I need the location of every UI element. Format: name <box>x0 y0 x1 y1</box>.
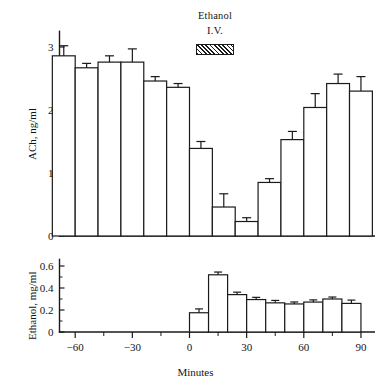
x-tick-label: −60 <box>67 341 85 353</box>
x-tick-label: 30 <box>241 341 253 353</box>
bar <box>304 302 323 332</box>
bar <box>190 313 209 332</box>
bar <box>266 303 285 332</box>
bottom-y-tick-label: 0.2 <box>40 304 54 316</box>
bar <box>167 87 190 236</box>
bar <box>327 84 350 236</box>
top-y-tick-label: 3 <box>48 41 54 53</box>
bar <box>247 300 266 332</box>
annotation-iv-label: I.V. <box>180 25 250 36</box>
bar <box>350 91 373 236</box>
bar <box>235 222 258 236</box>
bar <box>75 68 98 236</box>
top-y-axis-title: ACh, ng/ml <box>26 108 38 160</box>
x-tick-label: −30 <box>124 341 142 353</box>
bar <box>304 107 327 236</box>
bar <box>190 148 213 236</box>
bar <box>281 140 304 236</box>
bar <box>323 299 342 332</box>
x-tick-label: 90 <box>355 341 367 353</box>
top-panel-ach: 0123 <box>0 0 391 250</box>
bottom-y-tick-label: 0.6 <box>40 260 54 272</box>
bar <box>258 182 281 236</box>
bar <box>144 81 167 236</box>
x-axis-title: Minutes <box>0 366 391 378</box>
bar <box>228 295 247 332</box>
bar <box>212 207 235 236</box>
top-panel-plot: 0123 <box>0 0 391 250</box>
bar <box>342 303 361 332</box>
hatched-bar-icon <box>196 44 234 55</box>
bar <box>121 62 144 236</box>
bar <box>209 275 228 332</box>
x-tick-label: 60 <box>298 341 310 353</box>
bar <box>285 304 304 332</box>
figure-root: 0123 ACh, ng/ml Ethanol I.V. 00.20.40.6−… <box>0 0 391 386</box>
bottom-y-tick-label: 0 <box>48 326 54 338</box>
bar <box>98 62 121 236</box>
annotation-ethanol-label: Ethanol <box>180 10 250 21</box>
bar <box>52 56 75 236</box>
x-tick-label: 0 <box>187 341 193 353</box>
bottom-y-axis-title: Ethanol, mg/ml <box>26 272 38 340</box>
bottom-y-tick-label: 0.4 <box>40 282 54 294</box>
